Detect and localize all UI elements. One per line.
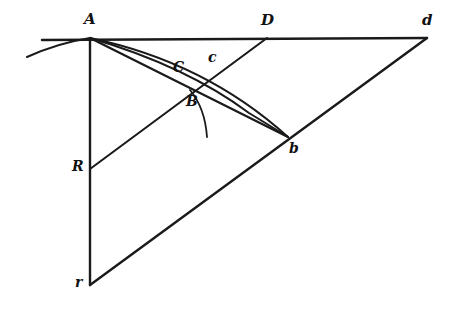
- segment-transversal-RD: [90, 38, 267, 169]
- vertex-label-D: D: [261, 13, 274, 28]
- vertex-label-B: B: [186, 94, 198, 108]
- diagram-canvas: [0, 0, 457, 309]
- vertex-label-A: A: [84, 12, 96, 27]
- vertex-label-C: C: [173, 60, 184, 74]
- vertex-label-c: c: [208, 50, 217, 64]
- geometry-diagram: A D d C c B b R r: [0, 0, 457, 309]
- vertex-label-d: d: [422, 13, 433, 28]
- vertex-label-R: R: [72, 159, 84, 173]
- vertex-label-b: b: [289, 141, 299, 155]
- arc-inner-through-B: [27, 38, 288, 137]
- vertex-label-r: r: [75, 275, 82, 289]
- segment-hypotenuse-rd: [90, 38, 427, 285]
- segment-chord-Ab: [90, 38, 288, 137]
